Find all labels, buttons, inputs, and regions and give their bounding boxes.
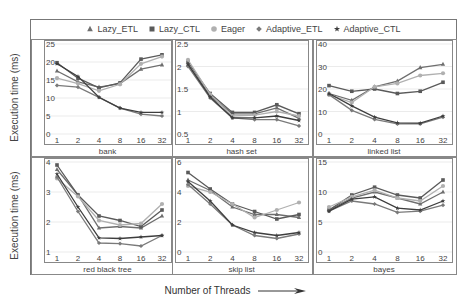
svg-text:0: 0	[46, 130, 51, 139]
svg-text:16: 16	[272, 136, 281, 145]
svg-text:5: 5	[318, 218, 323, 227]
svg-text:2: 2	[350, 136, 355, 145]
svg-text:0: 0	[177, 248, 182, 257]
svg-text:2: 2	[177, 63, 182, 72]
svg-text:2: 2	[76, 254, 81, 263]
svg-text:10: 10	[318, 188, 327, 197]
svg-text:20: 20	[46, 58, 55, 67]
svg-text:32: 32	[439, 136, 448, 145]
svg-text:8: 8	[252, 136, 257, 145]
panel-skip-list: 024612481632skip list	[173, 158, 313, 275]
svg-text:4: 4	[230, 254, 235, 263]
svg-text:hash set: hash set	[226, 147, 257, 156]
svg-text:2: 2	[350, 254, 355, 263]
svg-text:0: 0	[318, 130, 323, 139]
svg-text:10: 10	[46, 94, 55, 103]
svg-text:32: 32	[158, 136, 167, 145]
panel-red-black-tree: 123412481632red black tree	[32, 158, 173, 275]
x-axis-label-text: Number of Threads	[165, 285, 251, 296]
svg-text:5: 5	[46, 112, 51, 121]
svg-text:4: 4	[46, 158, 51, 167]
svg-text:16: 16	[272, 254, 281, 263]
svg-text:4: 4	[372, 254, 377, 263]
svg-text:bank: bank	[99, 147, 117, 156]
svg-text:16: 16	[137, 254, 146, 263]
panel-hash-set: 0.511.522.512481632hash set	[173, 40, 313, 157]
svg-text:16: 16	[416, 254, 425, 263]
svg-text:4: 4	[97, 254, 102, 263]
svg-text:1: 1	[55, 254, 60, 263]
svg-text:8: 8	[252, 254, 257, 263]
svg-text:2: 2	[208, 136, 213, 145]
svg-text:15: 15	[46, 76, 55, 85]
svg-text:2: 2	[208, 254, 213, 263]
svg-text:32: 32	[439, 254, 448, 263]
svg-text:6: 6	[177, 158, 182, 167]
svg-text:skip list: skip list	[228, 265, 255, 274]
svg-text:32: 32	[295, 136, 304, 145]
svg-text:1: 1	[327, 254, 332, 263]
svg-text:10: 10	[318, 108, 327, 117]
svg-text:3: 3	[46, 188, 51, 197]
svg-text:32: 32	[295, 254, 304, 263]
svg-text:linked list: linked list	[368, 147, 402, 156]
svg-text:4: 4	[230, 136, 235, 145]
svg-text:4: 4	[97, 136, 102, 145]
x-axis-label: Number of Threads	[0, 285, 473, 296]
svg-text:1.5: 1.5	[177, 85, 189, 94]
svg-text:20: 20	[318, 85, 327, 94]
svg-text:2: 2	[76, 136, 81, 145]
svg-text:1: 1	[55, 136, 60, 145]
svg-text:15: 15	[318, 158, 327, 167]
svg-text:1: 1	[327, 136, 332, 145]
svg-text:30: 30	[318, 63, 327, 72]
svg-text:40: 40	[318, 40, 327, 49]
svg-text:4: 4	[372, 136, 377, 145]
panel-bayes: 05101512481632bayes	[314, 158, 457, 275]
svg-text:16: 16	[137, 136, 146, 145]
svg-text:25: 25	[46, 40, 55, 49]
svg-text:8: 8	[118, 254, 123, 263]
svg-text:red black tree: red black tree	[83, 265, 132, 274]
svg-text:8: 8	[395, 136, 400, 145]
svg-text:2.5: 2.5	[177, 40, 189, 49]
svg-text:2: 2	[177, 218, 182, 227]
chart-grid: 051015202512481632bank0.511.522.51248163…	[0, 0, 473, 306]
svg-text:bayes: bayes	[373, 265, 394, 274]
svg-text:8: 8	[118, 136, 123, 145]
right-arrow-icon	[258, 287, 308, 295]
svg-text:32: 32	[158, 254, 167, 263]
svg-text:2: 2	[46, 218, 51, 227]
panel-linked-list: 01020304012481632linked list	[314, 40, 457, 157]
svg-text:1: 1	[186, 136, 191, 145]
svg-text:1: 1	[46, 248, 51, 257]
svg-text:4: 4	[177, 188, 182, 197]
svg-text:8: 8	[395, 254, 400, 263]
svg-text:16: 16	[416, 136, 425, 145]
panel-bank: 051015202512481632bank	[32, 40, 173, 157]
svg-text:1: 1	[186, 254, 191, 263]
svg-text:1: 1	[177, 108, 182, 117]
svg-text:0: 0	[318, 248, 323, 257]
